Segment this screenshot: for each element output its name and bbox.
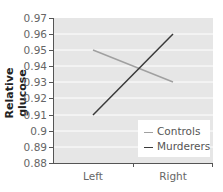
legend-item-murderers: Murderers [144,139,210,153]
legend-swatch-icon [144,147,153,148]
legend: Controls Murderers [138,120,210,157]
legend-label: Murderers [157,140,210,152]
legend-item-controls: Controls [144,124,200,138]
legend-swatch-icon [144,132,153,133]
x-tick-left: Left [68,170,118,182]
plot-area [0,0,223,192]
x-tick-right: Right [148,170,198,182]
legend-label: Controls [157,125,200,137]
